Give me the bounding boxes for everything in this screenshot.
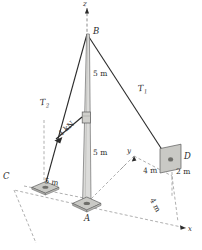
y-axis-label: y (127, 148, 131, 155)
pole-ab (82, 34, 91, 202)
d-height-dim-label: 2 m (176, 168, 190, 176)
z-axis-label: z (83, 1, 87, 8)
axis-arrowheads (85, 8, 186, 230)
pole-upper-dim-label: 5 m (93, 70, 107, 78)
plate-c-anchor (42, 186, 48, 189)
tension-t1-subscript: 1 (144, 88, 148, 94)
x-axis-label: x (188, 226, 192, 233)
plate-a-socket (84, 202, 90, 205)
tension-t1-label: T1 (138, 84, 148, 96)
z-axis-arrowhead (85, 8, 89, 14)
tension-t2-label: T2 (40, 98, 50, 110)
point-b-label: B (93, 27, 99, 36)
y-dim-tick (120, 164, 126, 170)
tension-t2-subscript: 2 (46, 102, 50, 108)
point-a-label: A (84, 214, 90, 223)
x-axis-line (84, 206, 186, 228)
c-offset-dim-label: 5 m (44, 177, 59, 187)
base-plate-a (73, 197, 101, 212)
cable-t1 (87, 34, 170, 162)
plate-d-anchor (168, 157, 173, 161)
y-offset-dim-label: 4 m (143, 167, 158, 175)
statics-figure: z B C A D y x T2 T1 5 m 5 m 4 kN 5 m 4 m… (0, 0, 202, 250)
plane-edge-line-left (14, 190, 36, 243)
figure-canvas (0, 0, 202, 250)
point-c-label: C (3, 172, 10, 181)
cable-t2 (45, 34, 87, 186)
point-d-label: D (184, 152, 191, 161)
y-axis-line (84, 156, 134, 206)
pole-lower-dim-label: 5 m (93, 149, 107, 157)
pole-collar (82, 112, 90, 123)
x-axis-arrowhead (180, 225, 186, 230)
d-to-x-line (172, 176, 178, 222)
